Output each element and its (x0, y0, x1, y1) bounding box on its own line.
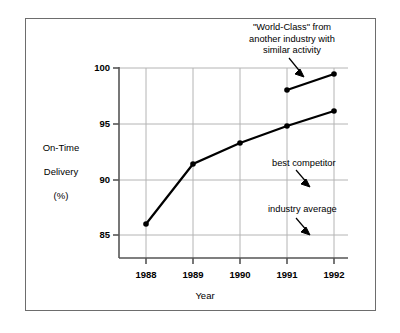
data-point (237, 140, 243, 146)
x-tick-label-1992: 1992 (314, 269, 354, 280)
data-point (331, 71, 337, 77)
series-world-class (284, 71, 337, 93)
x-tick-label-1989: 1989 (173, 269, 213, 280)
x-tick-marks (146, 258, 334, 264)
y-tick-label-90: 90 (84, 174, 110, 185)
x-axis-title: Year (170, 290, 240, 302)
x-tick-label-1991: 1991 (267, 269, 307, 280)
data-point (284, 123, 290, 129)
data-point (143, 221, 149, 227)
data-point (190, 161, 196, 167)
x-tick-label-1988: 1988 (126, 269, 166, 280)
y-tick-label-100: 100 (84, 62, 110, 73)
y-tick-label-85: 85 (84, 229, 110, 240)
arrow-industry-average-head (301, 227, 310, 235)
series-world-class-line (287, 74, 334, 90)
annotation-industry-average: industry average (268, 204, 372, 216)
annotation-world-class: "World-Class" from another industry with… (226, 22, 358, 57)
y-tick-label-95: 95 (84, 118, 110, 129)
y-axis-title-line3: (%) (28, 190, 94, 202)
x-tick-label-1990: 1990 (220, 269, 260, 280)
y-axis-title: On-Time Delivery (%) (28, 130, 94, 214)
annotation-best-competitor: best competitor (272, 158, 368, 170)
y-tick-marks (113, 68, 119, 235)
chart-figure: On-Time Delivery (%) Year 100 95 90 85 1… (0, 0, 400, 333)
data-point (284, 87, 290, 93)
arrow-world-class-head (295, 69, 304, 77)
data-point (331, 108, 337, 114)
y-axis-title-line1: On-Time (28, 142, 94, 154)
